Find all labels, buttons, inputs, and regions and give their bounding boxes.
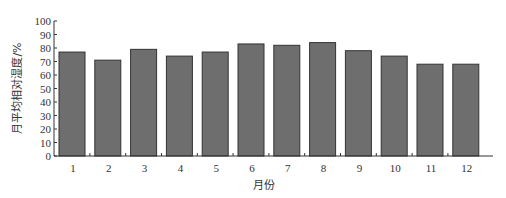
x-tick-label: 3: [142, 162, 148, 174]
x-tick-label: 11: [426, 162, 437, 174]
bar-5: [202, 52, 228, 156]
y-tick-label: 100: [35, 15, 52, 27]
y-axis-label-text: 月平均相对湿度/%: [8, 42, 24, 133]
y-tick-label: 40: [40, 96, 52, 108]
x-tick-label: 6: [249, 162, 255, 174]
y-tick-label: 70: [40, 56, 52, 68]
x-tick-label: 7: [285, 162, 291, 174]
y-tick-label: 80: [40, 42, 52, 54]
y-tick-label: 20: [40, 123, 52, 135]
y-tick-label: 10: [40, 137, 52, 149]
x-axis-label: 月份: [0, 176, 506, 192]
bar-11: [417, 64, 443, 156]
plot-area: 1234567891011120102030405060708090100: [0, 0, 506, 198]
bar-chart: 1234567891011120102030405060708090100 月平…: [0, 0, 506, 198]
x-tick-label: 9: [357, 162, 363, 174]
bar-8: [310, 43, 336, 156]
bar-1: [59, 52, 85, 156]
x-tick-label: 1: [70, 162, 76, 174]
x-tick-label: 10: [390, 162, 402, 174]
bar-7: [274, 45, 300, 156]
y-tick-label: 30: [40, 110, 52, 122]
bar-6: [238, 44, 264, 156]
bar-3: [131, 49, 157, 156]
x-tick-label: 4: [178, 162, 184, 174]
bar-10: [381, 56, 407, 156]
x-tick-label: 5: [213, 162, 219, 174]
bar-9: [345, 51, 371, 156]
bar-2: [95, 60, 121, 156]
bar-4: [166, 56, 192, 156]
x-tick-label: 12: [461, 162, 472, 174]
y-tick-label: 0: [46, 150, 52, 162]
x-tick-label: 2: [106, 162, 112, 174]
y-tick-label: 50: [40, 83, 52, 95]
y-tick-label: 90: [40, 29, 52, 41]
y-tick-label: 60: [40, 69, 52, 81]
bar-12: [453, 64, 479, 156]
y-axis-label: 月平均相对湿度/%: [8, 20, 24, 156]
x-tick-label: 8: [321, 162, 327, 174]
